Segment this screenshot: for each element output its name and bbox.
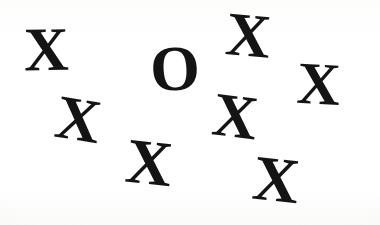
letter-o-target: O xyxy=(148,36,201,103)
letter-x-top-left: X xyxy=(23,18,69,81)
letter-x-far-right: X xyxy=(295,53,341,115)
letter-x-bottom-right: X xyxy=(250,146,303,214)
letter-x-mid-left: X xyxy=(51,85,105,153)
letter-array-canvas: XOXXXXXX xyxy=(0,0,380,225)
letter-x-top-right: X xyxy=(223,2,273,68)
letter-x-center: X xyxy=(209,83,261,150)
letter-x-bottom-center: X xyxy=(123,129,176,197)
